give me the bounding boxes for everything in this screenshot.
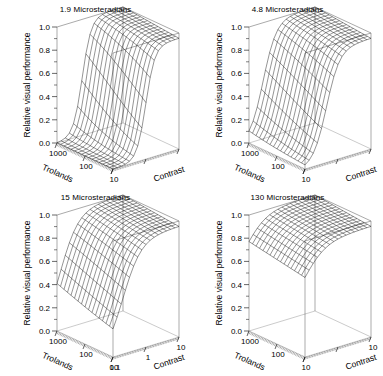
panel-surface-canvas: 0.00.20.40.60.81.0Relative visual perfor… (0, 0, 191, 192)
svg-text:1: 1 (146, 353, 151, 362)
svg-text:100: 100 (79, 350, 93, 359)
svg-text:0.8: 0.8 (231, 46, 243, 55)
svg-text:0.8: 0.8 (231, 234, 243, 243)
svg-text:1.0: 1.0 (39, 211, 51, 220)
svg-text:10: 10 (369, 343, 378, 352)
svg-text:Trolands: Trolands (41, 162, 75, 184)
svg-text:1.0: 1.0 (231, 211, 243, 220)
svg-text:Trolands: Trolands (41, 350, 75, 372)
svg-text:0.4: 0.4 (39, 93, 51, 102)
plot-panel: 130 Microsteradians 0.00.20.40.60.81.0Re… (192, 188, 383, 376)
svg-text:100: 100 (79, 162, 93, 171)
svg-text:Trolands: Trolands (233, 162, 267, 184)
svg-text:1.0: 1.0 (231, 23, 243, 32)
svg-text:Contrast: Contrast (344, 352, 378, 372)
svg-text:0.1: 0.1 (109, 363, 121, 372)
svg-text:1.0: 1.0 (39, 23, 51, 32)
svg-text:0.0: 0.0 (231, 139, 243, 148)
svg-text:Contrast: Contrast (152, 164, 186, 184)
svg-text:Contrast: Contrast (152, 352, 186, 372)
svg-text:1000: 1000 (241, 337, 259, 346)
svg-text:0.6: 0.6 (39, 69, 51, 78)
svg-text:0.6: 0.6 (231, 69, 243, 78)
svg-text:0.8: 0.8 (39, 46, 51, 55)
svg-text:Trolands: Trolands (233, 350, 267, 372)
svg-text:Contrast: Contrast (344, 164, 378, 184)
svg-text:0.6: 0.6 (39, 257, 51, 266)
svg-text:100: 100 (271, 162, 285, 171)
svg-text:Relative visual performance: Relative visual performance (22, 220, 32, 325)
svg-text:1000: 1000 (49, 337, 67, 346)
svg-text:0.2: 0.2 (39, 116, 51, 125)
plot-panel: 1.9 Microsteradians 0.00.20.40.60.81.0Re… (0, 0, 191, 188)
svg-text:0.6: 0.6 (231, 257, 243, 266)
svg-text:0.0: 0.0 (39, 139, 51, 148)
svg-text:0.0: 0.0 (231, 327, 243, 336)
svg-text:10: 10 (302, 175, 311, 184)
figure-canvas: 1.9 Microsteradians 0.00.20.40.60.81.0Re… (0, 0, 383, 376)
plot-panel: 4.8 Microsteradians 0.00.20.40.60.81.0Re… (192, 0, 383, 188)
svg-text:0.2: 0.2 (39, 304, 51, 313)
svg-text:0.0: 0.0 (39, 327, 51, 336)
svg-text:10: 10 (177, 343, 186, 352)
panel-surface-canvas: 0.00.20.40.60.81.0Relative visual perfor… (0, 188, 191, 376)
svg-text:Relative visual performance: Relative visual performance (214, 220, 224, 325)
panel-surface-canvas: 0.00.20.40.60.81.0Relative visual perfor… (192, 188, 383, 376)
svg-text:Relative visual performance: Relative visual performance (214, 32, 224, 137)
svg-text:1000: 1000 (241, 149, 259, 158)
svg-text:10: 10 (110, 175, 119, 184)
panel-surface-canvas: 0.00.20.40.60.81.0Relative visual perfor… (192, 0, 383, 192)
svg-text:0.4: 0.4 (231, 93, 243, 102)
svg-text:0.2: 0.2 (231, 116, 243, 125)
svg-text:100: 100 (271, 350, 285, 359)
svg-text:Relative visual performance: Relative visual performance (22, 32, 32, 137)
plot-panel: 15 Microsteradians 0.00.20.40.60.81.0Rel… (0, 188, 191, 376)
svg-text:0.2: 0.2 (231, 304, 243, 313)
svg-text:1000: 1000 (49, 149, 67, 158)
svg-text:0.4: 0.4 (231, 281, 243, 290)
svg-text:0.4: 0.4 (39, 281, 51, 290)
svg-text:10: 10 (302, 363, 311, 372)
svg-text:0.8: 0.8 (39, 234, 51, 243)
